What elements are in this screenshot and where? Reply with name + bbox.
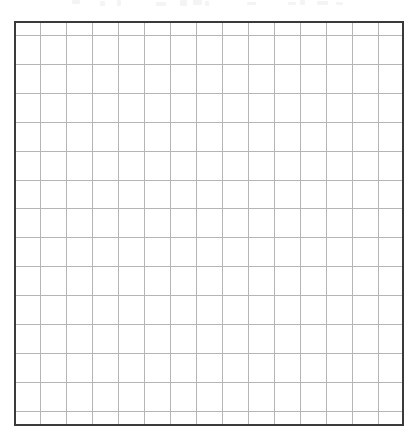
grid-cell[interactable] bbox=[352, 383, 378, 412]
grid-cell[interactable] bbox=[92, 93, 118, 122]
grid-cell[interactable] bbox=[352, 267, 378, 296]
grid-cell[interactable] bbox=[144, 267, 170, 296]
grid-cell[interactable] bbox=[40, 35, 66, 64]
grid-cell[interactable] bbox=[144, 296, 170, 325]
grid-cell[interactable] bbox=[300, 151, 326, 180]
grid-cell[interactable] bbox=[248, 354, 274, 383]
grid-cell[interactable] bbox=[300, 411, 326, 426]
grid-cell[interactable] bbox=[222, 325, 248, 354]
grid-cell[interactable] bbox=[222, 151, 248, 180]
grid-cell[interactable] bbox=[222, 411, 248, 426]
grid-cell[interactable] bbox=[196, 267, 222, 296]
grid-cell[interactable] bbox=[196, 209, 222, 238]
grid-cell[interactable] bbox=[196, 93, 222, 122]
grid-cell[interactable] bbox=[378, 325, 404, 354]
grid-cell[interactable] bbox=[352, 122, 378, 151]
grid-cell[interactable] bbox=[378, 93, 404, 122]
grid-cell[interactable] bbox=[274, 93, 300, 122]
grid-cell[interactable] bbox=[170, 93, 196, 122]
grid-cell[interactable] bbox=[300, 383, 326, 412]
grid-cell[interactable] bbox=[144, 64, 170, 93]
grid-cell[interactable] bbox=[222, 267, 248, 296]
grid-cell[interactable] bbox=[118, 122, 144, 151]
grid-cell[interactable] bbox=[40, 296, 66, 325]
grid-cell[interactable] bbox=[352, 411, 378, 426]
grid-cell[interactable] bbox=[92, 238, 118, 267]
grid-cell[interactable] bbox=[326, 383, 352, 412]
grid-cell[interactable] bbox=[66, 180, 92, 209]
grid-cell[interactable] bbox=[144, 122, 170, 151]
grid-cell[interactable] bbox=[40, 354, 66, 383]
grid-cell[interactable] bbox=[248, 151, 274, 180]
grid-cell[interactable] bbox=[144, 93, 170, 122]
grid-cell[interactable] bbox=[92, 151, 118, 180]
grid-cell[interactable] bbox=[14, 238, 40, 267]
grid-cell[interactable] bbox=[170, 64, 196, 93]
grid-cell[interactable] bbox=[300, 21, 326, 35]
grid-cell[interactable] bbox=[326, 209, 352, 238]
grid-cell[interactable] bbox=[352, 35, 378, 64]
grid-cell[interactable] bbox=[274, 180, 300, 209]
grid-cell[interactable] bbox=[378, 180, 404, 209]
grid-cell[interactable] bbox=[352, 238, 378, 267]
grid-cell[interactable] bbox=[144, 325, 170, 354]
grid-cell[interactable] bbox=[66, 354, 92, 383]
grid-cell[interactable] bbox=[196, 35, 222, 64]
grid-cell[interactable] bbox=[14, 64, 40, 93]
grid-cell[interactable] bbox=[92, 411, 118, 426]
grid-cell[interactable] bbox=[66, 296, 92, 325]
grid-cell[interactable] bbox=[14, 35, 40, 64]
grid-cell[interactable] bbox=[40, 325, 66, 354]
grid-cell[interactable] bbox=[144, 35, 170, 64]
grid-cell[interactable] bbox=[144, 21, 170, 35]
grid-cell[interactable] bbox=[300, 267, 326, 296]
grid-cell[interactable] bbox=[170, 180, 196, 209]
grid-cell[interactable] bbox=[118, 151, 144, 180]
grid-cell[interactable] bbox=[40, 411, 66, 426]
grid-cell[interactable] bbox=[170, 209, 196, 238]
grid-cell[interactable] bbox=[300, 64, 326, 93]
grid-cell[interactable] bbox=[274, 122, 300, 151]
grid-cell[interactable] bbox=[248, 209, 274, 238]
grid-cell[interactable] bbox=[196, 180, 222, 209]
grid-cell[interactable] bbox=[118, 325, 144, 354]
grid-cell[interactable] bbox=[40, 180, 66, 209]
grid-cell[interactable] bbox=[92, 209, 118, 238]
grid-cell[interactable] bbox=[248, 180, 274, 209]
grid-cell[interactable] bbox=[170, 411, 196, 426]
grid-cell[interactable] bbox=[196, 151, 222, 180]
grid-cell[interactable] bbox=[222, 238, 248, 267]
grid-cell[interactable] bbox=[326, 180, 352, 209]
grid-cell[interactable] bbox=[248, 64, 274, 93]
grid-cell[interactable] bbox=[248, 21, 274, 35]
grid-cell[interactable] bbox=[248, 325, 274, 354]
grid-cell[interactable] bbox=[352, 209, 378, 238]
grid-cell[interactable] bbox=[144, 383, 170, 412]
grid-cell[interactable] bbox=[300, 354, 326, 383]
grid-cell[interactable] bbox=[170, 21, 196, 35]
grid-cell[interactable] bbox=[378, 296, 404, 325]
grid-cell[interactable] bbox=[40, 209, 66, 238]
grid-cell[interactable] bbox=[352, 151, 378, 180]
grid-cell[interactable] bbox=[92, 354, 118, 383]
grid-cell[interactable] bbox=[248, 93, 274, 122]
grid-cell[interactable] bbox=[170, 267, 196, 296]
grid-cell[interactable] bbox=[66, 209, 92, 238]
grid-cell[interactable] bbox=[40, 21, 66, 35]
grid-cell[interactable] bbox=[378, 238, 404, 267]
grid-cell[interactable] bbox=[300, 93, 326, 122]
grid-cell[interactable] bbox=[66, 35, 92, 64]
grid-cell[interactable] bbox=[274, 21, 300, 35]
grid-cell[interactable] bbox=[40, 151, 66, 180]
grid-cell[interactable] bbox=[326, 64, 352, 93]
grid-cell[interactable] bbox=[40, 238, 66, 267]
grid-cell[interactable] bbox=[196, 383, 222, 412]
grid-cell[interactable] bbox=[196, 238, 222, 267]
grid-cell[interactable] bbox=[118, 209, 144, 238]
grid-cell[interactable] bbox=[66, 238, 92, 267]
grid-cell[interactable] bbox=[378, 354, 404, 383]
grid-cell[interactable] bbox=[170, 383, 196, 412]
grid-cell[interactable] bbox=[326, 267, 352, 296]
grid-cell[interactable] bbox=[92, 64, 118, 93]
grid-cell[interactable] bbox=[40, 64, 66, 93]
